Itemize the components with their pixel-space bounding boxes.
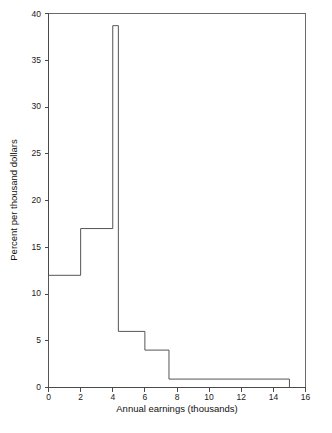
x-tick-label: 6 bbox=[143, 392, 148, 402]
y-tick-label: 5 bbox=[36, 335, 41, 345]
x-tick-label: 8 bbox=[175, 392, 180, 402]
y-tick-label: 0 bbox=[36, 382, 41, 392]
x-axis-title: Annual earnings (thousands) bbox=[116, 403, 237, 414]
x-tick-label: 2 bbox=[78, 392, 83, 402]
y-tick-label: 15 bbox=[32, 242, 42, 252]
x-tick-label: 12 bbox=[237, 392, 247, 402]
chart-canvas: 0 5 10 15 20 25 30 35 40 0 2 4 6 bbox=[0, 0, 332, 433]
x-tick-label: 16 bbox=[301, 392, 311, 402]
y-tick-label: 40 bbox=[32, 9, 42, 19]
x-tick-label: 10 bbox=[204, 392, 214, 402]
plot-frame bbox=[49, 14, 306, 388]
y-tick-label: 30 bbox=[32, 101, 42, 111]
y-axis-ticks bbox=[45, 14, 49, 388]
y-tick-label: 20 bbox=[32, 195, 42, 205]
x-tick-label: 14 bbox=[269, 392, 279, 402]
y-axis-tick-labels: 0 5 10 15 20 25 30 35 40 bbox=[32, 9, 42, 392]
y-axis-title: Percent per thousand dollars bbox=[8, 139, 19, 261]
x-axis-tick-labels: 0 2 4 6 8 10 12 14 16 bbox=[46, 392, 310, 402]
x-tick-label: 0 bbox=[46, 392, 51, 402]
y-tick-label: 10 bbox=[32, 288, 42, 298]
histogram-figure: 0 5 10 15 20 25 30 35 40 0 2 4 6 bbox=[0, 0, 332, 433]
x-axis-ticks bbox=[49, 388, 306, 392]
x-tick-label: 4 bbox=[110, 392, 115, 402]
y-tick-label: 35 bbox=[32, 55, 42, 65]
frame-top-right-line bbox=[49, 14, 306, 388]
histogram-outline bbox=[49, 26, 290, 388]
y-tick-label: 25 bbox=[32, 148, 42, 158]
